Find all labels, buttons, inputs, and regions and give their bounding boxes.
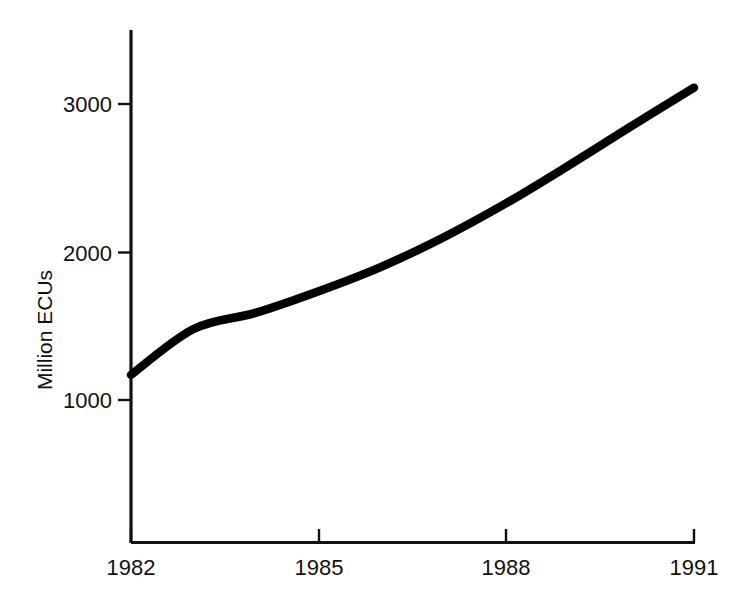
x-tick-label-1988: 1988 — [482, 555, 531, 580]
chart-background — [0, 0, 746, 604]
line-chart: 3000 2000 1000 1982 1985 1988 1991 Milli… — [0, 0, 746, 604]
y-tick-label-3000: 3000 — [63, 92, 112, 117]
y-axis-title: Million ECUs — [33, 270, 56, 390]
x-tick-label-1985: 1985 — [295, 555, 344, 580]
y-tick-label-2000: 2000 — [63, 241, 112, 266]
x-tick-label-1991: 1991 — [670, 555, 719, 580]
x-tick-label-1982: 1982 — [107, 555, 156, 580]
chart-figure: 3000 2000 1000 1982 1985 1988 1991 Milli… — [0, 0, 746, 604]
y-tick-label-1000: 1000 — [63, 388, 112, 413]
